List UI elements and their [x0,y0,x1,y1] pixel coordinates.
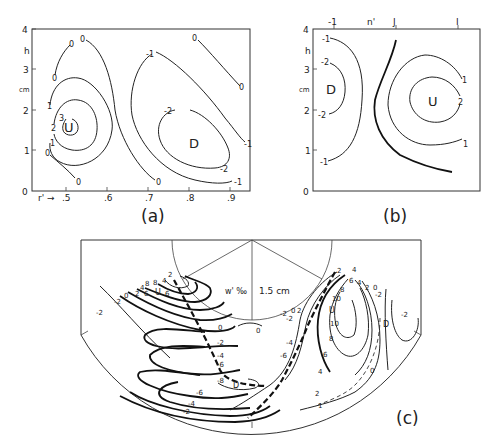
svg-text:0: 0 [52,74,57,83]
panel-b-ytick-4: 4 [303,25,309,35]
panel-b-toptick-neg1: -1 [328,17,337,27]
panel-c-left-axis-line [174,280,265,386]
svg-text:2: 2 [51,124,56,133]
panel-c-center-down: D [233,381,239,390]
panel-b-toptick-J: J [392,17,396,27]
svg-text:0: 0 [124,292,128,300]
panel-b-toptick-I: I [456,17,459,27]
panel-b: 4 h 3 cm 2 1 0 -1 n' J I [299,17,480,226]
panel-a-ylabel-cm: cm [19,86,30,94]
panel-c-left-up-center: U [155,288,161,297]
svg-text:-2: -2 [164,107,172,116]
figure-canvas: 4 h 3 cm 2 1 0 r' → .5 .6 .7 .8 .9 [0,0,497,446]
svg-text:-6: -6 [280,352,288,360]
svg-text:0: 0 [45,149,50,158]
svg-text:10: 10 [332,295,341,303]
svg-text:0: 0 [291,307,295,315]
svg-text:10: 10 [330,320,339,328]
panel-a-xtick-0.7: .7 [145,193,154,203]
panel-a-ytick-4: 4 [22,25,28,35]
svg-text:0: 0 [256,327,260,335]
svg-text:6: 6 [165,290,170,298]
svg-text:2: 2 [458,98,463,107]
svg-text:-2: -2 [375,291,382,299]
panel-b-ytick-0: 0 [303,187,309,197]
panel-c-quantity: w' ‰ [225,287,247,296]
panel-a-x-axis: r' → .5 .6 .7 .8 .9 [38,187,236,203]
panel-b-toptick-n: n' [367,17,375,27]
svg-text:-1: -1 [320,158,328,167]
panel-a-y-axis: 4 h 3 cm 2 1 0 [19,25,36,197]
panel-c: w' ‰ 1.5 cm [81,240,421,434]
panel-b-y-axis: 4 h 3 cm 2 1 0 [299,25,317,197]
panel-b-top-axis: -1 n' J I [328,17,459,29]
svg-text:4: 4 [357,279,362,287]
arrow-right-icon: → [47,193,55,203]
svg-text:0: 0 [156,178,161,187]
svg-text:-4: -4 [217,352,225,360]
svg-text:-2: -2 [321,58,329,67]
panel-c-right-up-center: U [329,306,335,315]
panel-c-scale: 1.5 cm [259,286,290,296]
svg-text:-1: -1 [234,178,242,187]
svg-text:6: 6 [323,351,328,359]
panel-a-contours [50,40,245,183]
svg-text:-2: -2 [183,408,190,416]
panel-b-contours [328,38,462,172]
panel-a-ylabel-h: h [24,46,30,56]
svg-text:-2: -2 [96,309,103,317]
svg-text:2: 2 [337,267,341,275]
svg-text:2: 2 [315,390,319,398]
svg-text:-2: -2 [286,315,293,323]
panel-a-xtick-0.5: .5 [62,193,71,203]
svg-text:4: 4 [162,277,167,285]
panel-a-xtick-0.9: .9 [227,193,236,203]
panel-a-ytick-2: 2 [23,106,29,116]
svg-text:1: 1 [50,139,55,148]
panel-a-xlabel-r: r' [38,193,44,203]
panel-a-xtick-0.6: .6 [104,193,113,203]
svg-text:-1: -1 [244,140,252,149]
panel-a-up-center: U [64,120,74,135]
panel-a-contour-labels: 0 0 0 1 3 2 U 1 0 0 0 -1 0 0 -2 D -2 -1 … [45,34,252,187]
svg-text:0: 0 [218,324,222,332]
panel-a: 4 h 3 cm 2 1 0 r' → .5 .6 .7 .8 .9 [19,25,252,226]
svg-text:1: 1 [463,140,468,149]
svg-text:8: 8 [340,286,344,294]
svg-text:2: 2 [297,307,301,315]
svg-text:0: 0 [192,34,197,43]
svg-text:8: 8 [153,279,157,287]
panel-b-ytick-1: 1 [305,146,311,156]
svg-text:-6: -6 [217,361,225,369]
panel-a-ytick-3: 3 [23,65,29,75]
svg-text:1: 1 [462,76,467,85]
svg-text:6: 6 [144,290,149,298]
svg-text:0: 0 [80,35,85,44]
svg-text:1: 1 [47,102,52,111]
panel-a-label: (a) [141,206,165,226]
svg-text:1: 1 [318,402,322,410]
svg-text:-8: -8 [217,377,224,385]
svg-text:-1: -1 [322,35,330,44]
svg-text:-2: -2 [114,298,121,306]
svg-text:2: 2 [365,284,369,292]
panel-c-right-down-center: D [383,320,389,329]
panel-b-contour-labels: -1 -2 D -2 -1 U 1 2 1 [318,35,468,167]
panel-b-ytick-3: 3 [304,65,310,75]
svg-text:0: 0 [370,367,374,375]
svg-text:-2: -2 [217,339,224,347]
panel-b-down-center: D [326,82,336,97]
panel-a-ytick-0: 0 [22,187,28,197]
panel-b-ylabel-h: h [305,46,311,56]
panel-b-up-center: U [428,94,438,109]
svg-text:-2: -2 [401,311,408,319]
svg-text:2: 2 [135,290,139,298]
panel-a-down-center: D [189,136,199,151]
panel-b-ytick-2: 2 [304,106,310,116]
svg-text:8: 8 [329,335,333,343]
svg-text:0: 0 [76,178,81,187]
svg-text:-2: -2 [318,111,326,120]
panel-b-frame [313,29,480,191]
svg-text:-4: -4 [188,400,196,408]
panel-a-ytick-1: 1 [24,146,30,156]
